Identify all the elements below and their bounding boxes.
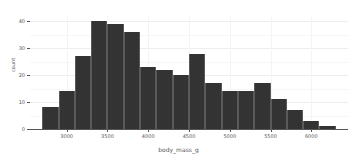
- x-axis-tick-label: 5500: [264, 134, 277, 139]
- bar: [124, 32, 140, 129]
- x-axis-tick-label: 4000: [142, 134, 155, 139]
- y-axis-tick-label: 40: [19, 19, 25, 24]
- bar: [42, 107, 58, 129]
- bar: [59, 91, 75, 129]
- bar: [205, 83, 221, 129]
- x-axis-tick: [189, 129, 190, 132]
- x-axis-tick-label: 3500: [101, 134, 114, 139]
- y-axis: 010203040: [0, 16, 30, 129]
- x-axis-tick-label: 6000: [305, 134, 318, 139]
- bar: [271, 99, 287, 129]
- x-axis-tick: [107, 129, 108, 132]
- bar: [75, 56, 91, 129]
- bar: [91, 21, 107, 129]
- bar: [303, 121, 319, 129]
- bar: [287, 110, 303, 129]
- bar-series: [30, 16, 348, 129]
- bar: [238, 91, 254, 129]
- bar: [254, 83, 270, 129]
- x-axis-tick-label: 3000: [60, 134, 73, 139]
- x-axis-tick: [271, 129, 272, 132]
- x-axis-tick: [67, 129, 68, 132]
- plot-area: [30, 16, 348, 129]
- y-axis-tick-label: 30: [19, 46, 25, 51]
- bar: [222, 91, 238, 129]
- bar: [173, 75, 189, 129]
- y-axis-tick-label: 0: [22, 127, 25, 132]
- x-axis-tick: [311, 129, 312, 132]
- x-axis-tick: [230, 129, 231, 132]
- x-axis-title: body_mass_g: [0, 146, 357, 153]
- y-axis-tick-label: 20: [19, 73, 25, 78]
- bar: [189, 54, 205, 129]
- bar: [140, 67, 156, 129]
- x-axis-tick: [148, 129, 149, 132]
- x-axis-tick-label: 4500: [183, 134, 196, 139]
- bar: [156, 70, 172, 129]
- bar: [107, 24, 123, 129]
- y-axis-tick-label: 10: [19, 100, 25, 105]
- x-axis-tick-label: 5000: [223, 134, 236, 139]
- histogram-figure: count 010203040 300035004000450050005500…: [0, 0, 357, 165]
